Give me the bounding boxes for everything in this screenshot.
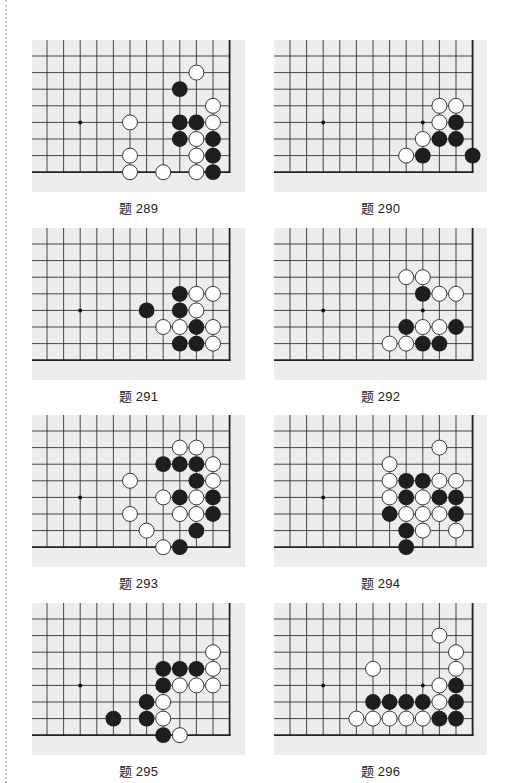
white-stone-icon [189, 507, 204, 522]
white-stone-icon [382, 457, 397, 472]
black-stone-icon [139, 711, 155, 727]
black-stone-icon [189, 523, 205, 539]
black-stone-icon [155, 661, 171, 677]
white-stone-icon [449, 661, 464, 676]
go-problem-293: 题 293 [32, 415, 245, 593]
white-stone-icon [189, 440, 204, 455]
white-stone-icon [366, 711, 381, 726]
star-point-icon [78, 683, 82, 687]
black-stone-icon [448, 490, 464, 506]
black-stone-icon [172, 303, 188, 319]
problem-caption: 题 289 [32, 198, 245, 217]
black-stone-icon [415, 473, 431, 489]
black-stone-icon [365, 694, 381, 710]
black-stone-icon [398, 473, 414, 489]
white-stone-icon [189, 65, 204, 80]
black-stone-icon [139, 694, 155, 710]
white-stone-icon [415, 132, 430, 147]
black-stone-icon [189, 661, 205, 677]
black-stone-icon [205, 490, 221, 506]
black-stone-icon [398, 539, 414, 555]
white-stone-icon [189, 286, 204, 301]
black-stone-icon [106, 711, 122, 727]
white-stone-icon [123, 165, 138, 180]
white-stone-icon [206, 320, 221, 335]
go-problem-291: 题 291 [32, 228, 245, 406]
black-stone-icon [432, 131, 448, 147]
white-stone-icon [366, 661, 381, 676]
white-stone-icon [399, 148, 414, 163]
star-point-icon [78, 495, 82, 499]
white-stone-icon [382, 336, 397, 351]
white-stone-icon [123, 507, 138, 522]
star-point-icon [421, 683, 425, 687]
black-stone-icon [205, 131, 221, 147]
black-stone-icon [172, 539, 188, 555]
star-point-icon [321, 495, 325, 499]
go-problem-289: 题 289 [32, 40, 245, 218]
white-stone-icon [189, 148, 204, 163]
black-stone-icon [448, 694, 464, 710]
white-stone-icon [382, 473, 397, 488]
black-stone-icon [172, 115, 188, 131]
white-stone-icon [415, 320, 430, 335]
white-stone-icon [206, 336, 221, 351]
black-stone-icon [189, 319, 205, 335]
white-stone-icon [172, 320, 187, 335]
problem-caption: 题 292 [274, 386, 487, 405]
white-stone-icon [156, 711, 171, 726]
black-stone-icon [398, 319, 414, 335]
star-point-icon [321, 308, 325, 312]
white-stone-icon [415, 507, 430, 522]
white-stone-icon [172, 678, 187, 693]
black-stone-icon [448, 131, 464, 147]
white-stone-icon [123, 115, 138, 130]
black-stone-icon [398, 490, 414, 506]
black-stone-icon [205, 506, 221, 522]
white-stone-icon [156, 695, 171, 710]
white-stone-icon [399, 270, 414, 285]
white-stone-icon [382, 711, 397, 726]
white-stone-icon [432, 286, 447, 301]
black-stone-icon [398, 694, 414, 710]
star-point-icon [421, 120, 425, 124]
black-stone-icon [415, 148, 431, 164]
problem-caption: 题 290 [274, 198, 487, 217]
white-stone-icon [156, 320, 171, 335]
black-stone-icon [448, 319, 464, 335]
white-stone-icon [432, 507, 447, 522]
white-stone-icon [432, 98, 447, 113]
problem-caption: 题 295 [32, 761, 245, 780]
white-stone-icon [432, 320, 447, 335]
problem-caption: 题 293 [32, 573, 245, 592]
black-stone-icon [465, 148, 481, 164]
white-stone-icon [123, 473, 138, 488]
white-stone-icon [432, 440, 447, 455]
white-stone-icon [189, 132, 204, 147]
black-stone-icon [415, 694, 431, 710]
black-stone-icon [155, 727, 171, 743]
go-problem-295: 题 295 [32, 603, 245, 781]
white-stone-icon [206, 678, 221, 693]
star-point-icon [78, 308, 82, 312]
white-stone-icon [189, 490, 204, 505]
black-stone-icon [155, 456, 171, 472]
go-board-diagram [274, 415, 487, 567]
white-stone-icon [449, 523, 464, 538]
black-stone-icon [189, 456, 205, 472]
black-stone-icon [432, 490, 448, 506]
black-stone-icon [448, 678, 464, 694]
white-stone-icon [206, 115, 221, 130]
black-stone-icon [205, 148, 221, 164]
black-stone-icon [172, 81, 188, 97]
white-stone-icon [432, 678, 447, 693]
black-stone-icon [448, 115, 464, 131]
black-stone-icon [432, 711, 448, 727]
black-stone-icon [432, 336, 448, 352]
white-stone-icon [206, 98, 221, 113]
go-board-diagram [32, 228, 245, 380]
white-stone-icon [382, 490, 397, 505]
go-board-diagram [32, 603, 245, 755]
star-point-icon [321, 683, 325, 687]
white-stone-icon [449, 286, 464, 301]
